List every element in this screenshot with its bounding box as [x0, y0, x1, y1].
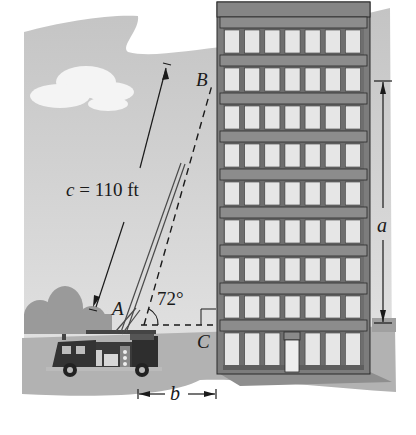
window: [345, 333, 360, 366]
window: [345, 258, 360, 281]
window: [305, 258, 320, 281]
window: [245, 296, 260, 318]
floor-band: [220, 320, 367, 331]
window: [245, 106, 260, 129]
label-vertex-c: C: [197, 331, 210, 352]
window: [225, 30, 240, 53]
window: [325, 144, 340, 167]
window: [245, 258, 260, 281]
window: [325, 296, 340, 318]
floor-band: [220, 93, 367, 104]
window: [265, 68, 280, 91]
window: [345, 220, 360, 243]
label-hypotenuse: c = 110 ft: [66, 179, 140, 200]
window: [285, 106, 300, 129]
window: [325, 106, 340, 129]
window: [325, 258, 340, 281]
window: [285, 182, 300, 205]
window: [285, 296, 300, 318]
window: [325, 333, 340, 366]
label-hypotenuse-value: = 110 ft: [74, 179, 139, 200]
window: [265, 106, 280, 129]
label-side-a: a: [377, 214, 387, 236]
window: [285, 220, 300, 243]
window: [345, 106, 360, 129]
window: [345, 68, 360, 91]
window: [225, 258, 240, 281]
window: [305, 220, 320, 243]
window: [285, 68, 300, 91]
window: [265, 258, 280, 281]
window: [265, 30, 280, 53]
window: [345, 144, 360, 167]
window: [245, 30, 260, 53]
window: [245, 333, 260, 366]
floor-band: [220, 55, 367, 66]
window: [325, 30, 340, 53]
floor-band: [220, 17, 367, 28]
window: [345, 30, 360, 53]
label-angle-a: 72°: [157, 288, 184, 309]
window: [265, 144, 280, 167]
window: [245, 68, 260, 91]
window: [265, 296, 280, 318]
window: [345, 182, 360, 205]
window: [225, 182, 240, 205]
floor-band: [220, 283, 367, 294]
window: [305, 296, 320, 318]
window: [225, 296, 240, 318]
window: [225, 144, 240, 167]
window: [325, 68, 340, 91]
window: [285, 144, 300, 167]
label-side-b: b: [170, 382, 180, 404]
floor-band: [220, 245, 367, 256]
window: [245, 144, 260, 167]
window: [325, 182, 340, 205]
label-vertex-b: B: [196, 69, 208, 90]
diagram-scene: B A C 72° c = 110 ft a b: [0, 0, 416, 435]
right-ground-patch: [372, 318, 396, 332]
window: [265, 220, 280, 243]
entrance-door: [284, 332, 300, 372]
window: [305, 68, 320, 91]
window: [305, 30, 320, 53]
window: [305, 106, 320, 129]
window: [345, 296, 360, 318]
window: [305, 182, 320, 205]
window: [325, 220, 340, 243]
window: [265, 333, 280, 366]
window: [225, 220, 240, 243]
window: [305, 144, 320, 167]
label-vertex-a: A: [110, 298, 124, 319]
window: [285, 30, 300, 53]
window: [225, 106, 240, 129]
window: [225, 68, 240, 91]
window: [245, 220, 260, 243]
floor-band: [220, 207, 367, 218]
window: [265, 182, 280, 205]
window: [285, 258, 300, 281]
window: [245, 182, 260, 205]
floor-band: [220, 169, 367, 180]
window: [225, 333, 240, 366]
floor-band: [220, 131, 367, 142]
window: [305, 333, 320, 366]
